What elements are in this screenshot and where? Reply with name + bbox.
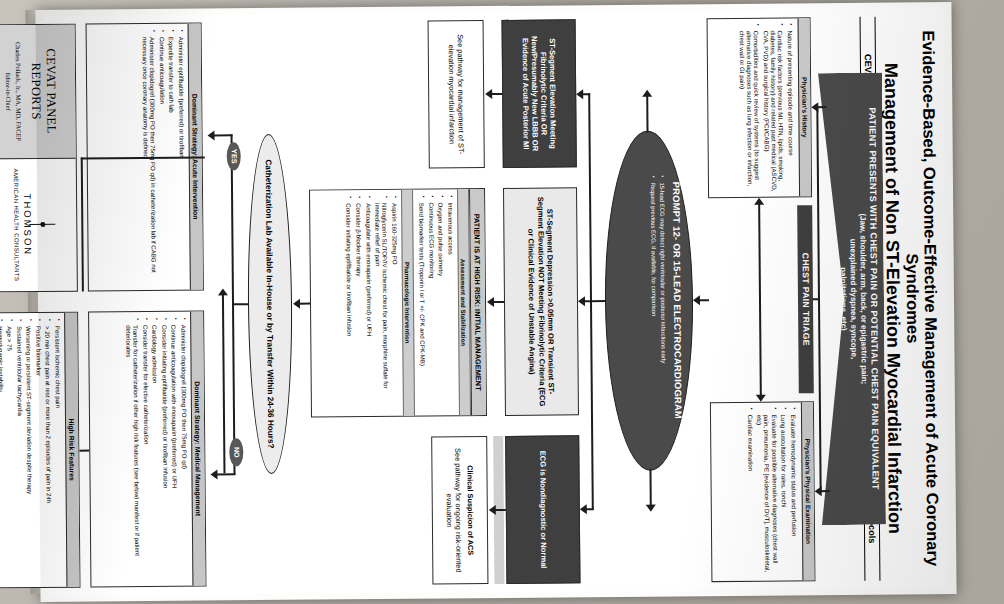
prompt-ecg-list: 15-lead ECG may detect right ventricular… xyxy=(649,176,667,426)
high-risk-features-item: Age > 75 xyxy=(6,319,15,581)
physicians-history-box: Physician's History Nature of presenting… xyxy=(707,17,813,198)
credit-editor: Charles Pollack, Jr., MA, MD, FACEP xyxy=(15,42,23,141)
high-risk-section-1-header: Pharmacologic Intervention xyxy=(401,190,415,416)
connector-branch-cross xyxy=(222,294,225,473)
high-risk-features-item: Positive biomarker xyxy=(35,319,44,581)
exam-item: Evaluate hemodynamic status and perfusio… xyxy=(790,407,799,575)
high-risk-features-item: Hemodynamic instability xyxy=(0,319,6,581)
branch-no-item: Administer clopidogrel (300mg PO then 75… xyxy=(180,318,189,580)
connector-exam-stub xyxy=(821,490,830,492)
outcome-nondiagnostic: ECG is Nondiagnostic or Normal xyxy=(505,435,580,584)
high-risk-management-panel: PATIENT IS AT HIGH RISK: INITIAL MANAGEM… xyxy=(309,188,487,418)
chest-pain-triage-banner: CHEST PAIN TRIAGE xyxy=(797,205,814,393)
credit-block: CEVAT PANEL REPORTSCharles Pollack, Jr.,… xyxy=(0,24,78,293)
high-risk-features-item: > 20 min chest pain at rest or more than… xyxy=(45,319,54,581)
branch-label-yes: YES xyxy=(227,142,241,170)
pathway-st-elevation: See pathway for management of ST-elevati… xyxy=(428,20,485,168)
poster-canvas: Evidence-Based, Outcome-Effective Manage… xyxy=(43,8,948,596)
high-risk-features-item: Worsening or persistent ST-segment devia… xyxy=(25,319,34,581)
branch-no-list: Administer clopidogrel (300mg PO then 75… xyxy=(125,318,189,581)
assessment-item: Intravenous access xyxy=(447,195,456,409)
arrowhead-to-prompt xyxy=(693,295,700,305)
branch-no-item: Cardiology admission xyxy=(151,318,160,580)
physicians-exam-list: Evaluate hemodynamic status and perfusio… xyxy=(746,407,798,575)
credit-series-side: CEVAT PANEL REPORTSCharles Pollack, Jr.,… xyxy=(0,25,76,159)
pathway-nondiagnostic-text: See pathway for ongoing risk-oriented ev… xyxy=(444,442,464,578)
pharmacologic-item: Nitroglycerin SL/TOP/IV ischemic chest f… xyxy=(374,196,390,410)
arrowhead-p1 xyxy=(485,89,492,99)
high-risk-features-panel: High Risk FeaturesPersistent ischemic ch… xyxy=(0,312,80,589)
exam-item: Lung auscultation for rales, ronchi xyxy=(780,407,789,575)
prompt-ecg-title: PROMPT 12- OR 15-LEAD ELECTROCARDIOGRAM xyxy=(671,131,684,469)
arrowhead-outcome-right xyxy=(580,504,587,514)
branch-label-no: NO xyxy=(229,438,243,466)
history-item: Comorbidities and quick review of system… xyxy=(738,24,761,192)
outcome-st-elevation: ST-Segment Elevation Meeting Fibrinolyti… xyxy=(502,19,577,168)
high-risk-section-1-list: Aspirin 160-325mg PONitroglycerin SL/TOP… xyxy=(345,196,399,410)
connector-no-down xyxy=(216,473,235,475)
branch-no-item: Consider initiating eptifibatide (prefer… xyxy=(161,318,170,580)
connector-prompt-left xyxy=(647,95,649,133)
branch-no-panel: Dominant Strategy: Medical Management Ad… xyxy=(88,311,206,588)
high-risk-features-item: Sustained ventricular tachycardia xyxy=(16,319,25,581)
arrowhead-prompt-left xyxy=(642,90,652,97)
pathway-nondiagnostic: Clinical Suspicion of ACS See pathway fo… xyxy=(431,436,488,584)
cath-lab-decision: Catheterization Lab Available In-House o… xyxy=(247,134,294,474)
arrowhead-history-right xyxy=(756,395,766,402)
connector-outcome-left xyxy=(582,93,590,95)
high-risk-features-item: Persistent ischemic chest pain xyxy=(54,319,63,581)
connector-decision-stem xyxy=(233,303,248,305)
connector-hr-down xyxy=(299,303,310,305)
connector-o2-down xyxy=(493,301,504,303)
credit-publisher-side: THOMSONAMERICAN HEALTH CONSULTANTS xyxy=(0,158,77,291)
history-item: Nature of presenting episode and time co… xyxy=(786,23,795,191)
thomson-dot-icon xyxy=(40,222,45,227)
exam-item: Evaluate for possible alternative diagno… xyxy=(756,408,779,576)
pharmacologic-item: Aspirin 160-325mg PO xyxy=(391,196,400,410)
arrowhead-to-cath xyxy=(293,299,300,309)
arrowhead-p2 xyxy=(489,505,496,515)
outcome-nondiagnostic-label: ECG is Nondiagnostic or Normal xyxy=(538,451,548,569)
clinical-suspicion-label: Clinical Suspicion of ACS xyxy=(465,442,475,578)
branch-no-item: Continue anticoagulation with enoxaparin… xyxy=(171,318,180,580)
poster-sheet: Evidence-Based, Outcome-Effective Manage… xyxy=(35,2,956,602)
connector-history-exam xyxy=(759,204,762,396)
high-risk-features-body: Persistent ischemic chest pain> 20 min c… xyxy=(0,313,66,588)
arrowhead-no xyxy=(210,469,217,479)
physicians-history-header: Physician's History xyxy=(798,18,812,196)
assessment-item: Continuous ECG monitoring xyxy=(428,196,437,410)
physicians-exam-header: Physician's Physical Examination xyxy=(801,402,815,580)
branch-no-item: Consider transfer for elective catheteri… xyxy=(142,318,151,580)
entry-banner: PATIENT PRESENTS WITH CHEST PAIN OR POTE… xyxy=(818,73,886,526)
pharmacologic-item: Anticoagulate with enoxaparin (preferred… xyxy=(365,196,374,410)
connector-o1-down xyxy=(491,93,502,95)
credit-publisher: THOMSON xyxy=(22,194,34,257)
high-risk-title: PATIENT IS AT HIGH RISK: INITIAL MANAGEM… xyxy=(469,189,486,415)
connector-outcome-right xyxy=(586,508,594,510)
connector-to-hrf xyxy=(79,450,89,452)
outcome-st-depression: ST-Segment Depression >0.05mm OR Transie… xyxy=(503,187,579,416)
arrowhead-hr xyxy=(487,297,494,307)
connector-credit-feed xyxy=(81,158,84,292)
connector-to-prompt xyxy=(699,299,709,301)
connector-prompt-down xyxy=(591,300,605,302)
connector-outcome-mid xyxy=(584,300,592,302)
credit-block xyxy=(78,24,80,292)
arrowhead-outcome-left xyxy=(576,89,583,99)
high-risk-features-list: Persistent ischemic chest pain> 20 min c… xyxy=(0,319,63,582)
assessment-item: Send biomarker tests (Troponin I or T +/… xyxy=(418,196,427,410)
photograph-background: Evidence-Based, Outcome-Effective Manage… xyxy=(0,0,1004,604)
connector-triage-bar xyxy=(817,107,822,491)
arrowhead-outcome-mid xyxy=(578,296,585,306)
credit-editor-role: Editor-in-Chief xyxy=(5,72,12,110)
physicians-history-list: Nature of presenting episode and time co… xyxy=(738,23,795,191)
history-item: Cardiac risk factors (previous MI, HTN, … xyxy=(762,23,785,191)
pharmacologic-item: Consider β-blocker therapy xyxy=(355,196,364,410)
high-risk-section-0-header: Assessment and Stabilization xyxy=(457,189,471,415)
connector-yes-down xyxy=(214,134,233,136)
arrowhead-exam-left xyxy=(754,198,764,205)
physicians-exam-box: Physician's Physical Examination Evaluat… xyxy=(710,401,816,582)
prompt-item: 15-lead ECG may detect right ventricular… xyxy=(658,176,667,426)
branch-no-item: Transfer for catheterization if other hi… xyxy=(125,318,141,580)
high-risk-features-header: High Risk Features xyxy=(64,313,79,587)
